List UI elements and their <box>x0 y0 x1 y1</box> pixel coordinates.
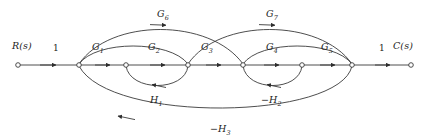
node-7[interactable] <box>350 63 355 68</box>
edge-inner-right-path <box>243 46 352 64</box>
label-gain-input-one: 1 <box>53 44 59 53</box>
signal-flow-graph-canvas <box>0 0 427 139</box>
label-gain-g1-sub: 1 <box>100 47 104 55</box>
label-gain-g3-sub: 3 <box>209 47 213 55</box>
arrowhead-h3 <box>118 116 135 120</box>
label-output-signal: C(s) <box>393 41 413 51</box>
arrowhead-g7 <box>259 25 275 26</box>
label-gain-output-one: 1 <box>379 44 385 53</box>
label-gain-g4-base: G <box>266 41 274 52</box>
label-gain-h2: −H2 <box>261 95 282 107</box>
label-gain-g2: G2 <box>148 42 160 54</box>
label-gain-h2-sub: 2 <box>277 100 281 108</box>
label-gain-g2-sub: 2 <box>156 47 160 55</box>
node-6[interactable] <box>300 63 305 68</box>
node-2[interactable] <box>77 63 82 68</box>
label-gain-g7: G7 <box>266 9 278 21</box>
label-gain-g6: G6 <box>157 9 169 21</box>
label-gain-h3: −H3 <box>210 124 231 136</box>
label-gain-g4-sub: 4 <box>274 47 278 55</box>
label-gain-g7-sub: 7 <box>274 14 278 22</box>
label-gain-g6-sub: 6 <box>165 14 169 22</box>
node-c-output[interactable] <box>409 63 414 68</box>
label-gain-h3-base: −H <box>210 123 226 134</box>
arrowhead-g6 <box>150 25 166 26</box>
label-gain-g5: G5 <box>321 42 333 54</box>
signal-flow-graph-diagram: R(s) 1 G1 G2 G3 G4 G5 1 C(s) G6 G7 H1 −H… <box>0 0 427 139</box>
label-gain-g1: G1 <box>92 42 104 54</box>
node-4[interactable] <box>186 63 191 68</box>
label-gain-g7-base: G <box>266 8 274 19</box>
label-gain-g5-sub: 5 <box>329 47 333 55</box>
label-gain-g3-base: G <box>201 41 209 52</box>
label-gain-g6-base: G <box>157 8 165 19</box>
node-5[interactable] <box>241 63 246 68</box>
label-gain-g1-base: G <box>92 41 100 52</box>
label-gain-g4: G4 <box>266 42 278 54</box>
label-gain-g2-base: G <box>148 41 156 52</box>
node-3[interactable] <box>124 63 129 68</box>
edge-h3-path <box>79 66 352 108</box>
label-gain-h3-sub: 3 <box>226 129 230 137</box>
label-input-signal: R(s) <box>12 41 32 51</box>
node-r-input[interactable] <box>16 63 21 68</box>
label-gain-h1: H1 <box>150 95 163 107</box>
label-gain-h2-base: −H <box>261 94 277 105</box>
label-gain-g3: G3 <box>201 42 213 54</box>
edge-h2-path <box>243 66 302 86</box>
label-gain-h1-sub: 1 <box>158 100 162 108</box>
label-gain-g5-base: G <box>321 41 329 52</box>
edge-h1-path <box>126 66 188 86</box>
